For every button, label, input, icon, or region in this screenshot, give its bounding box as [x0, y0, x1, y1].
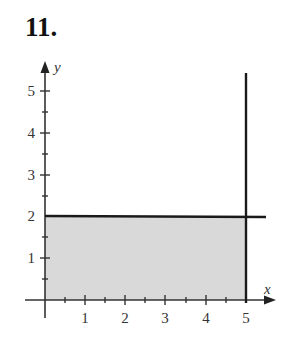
y-tick-label: 2: [28, 208, 36, 224]
y-tick-label: 1: [28, 250, 36, 266]
x-tick-label: 3: [161, 310, 169, 326]
x-tick-label: 5: [242, 310, 250, 326]
y-axis-arrow-icon: [41, 61, 50, 73]
line-y-equals-2: [45, 216, 266, 217]
x-tick-label: 2: [121, 310, 129, 326]
y-tick-label: 3: [28, 167, 36, 183]
x-axis-label: x: [263, 281, 271, 297]
shaded-region: [45, 216, 246, 300]
graph: 1 2 3 4 5 1 2 3 4 5 x y: [0, 0, 287, 341]
x-tick-label: 1: [81, 310, 89, 326]
y-tick-label: 5: [28, 83, 36, 99]
y-tick-label: 4: [28, 125, 36, 141]
x-tick-label: 4: [202, 310, 210, 326]
y-axis-label: y: [52, 59, 61, 75]
